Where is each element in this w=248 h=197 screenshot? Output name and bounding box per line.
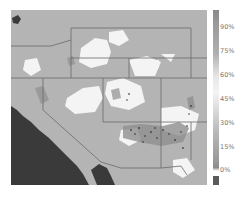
map-graphic xyxy=(11,10,207,185)
colorbar-tick-15: 15% xyxy=(220,144,234,151)
colorbar-tick-75: 75% xyxy=(220,48,234,55)
colorbar xyxy=(213,10,219,185)
border-id-nv-ut xyxy=(11,40,71,46)
map-panel xyxy=(11,10,207,185)
colorbar-tick-30: 30% xyxy=(220,120,234,127)
colorbar-tick-45: 45% xyxy=(220,96,234,103)
island xyxy=(12,15,21,24)
pacific-ocean xyxy=(11,106,89,185)
colorbar-tick-60: 60% xyxy=(220,72,234,79)
colorbar-tick-0: 0% xyxy=(220,167,230,174)
gulf-of-california xyxy=(91,164,115,185)
colorbar-tick-90: 90% xyxy=(220,24,234,31)
